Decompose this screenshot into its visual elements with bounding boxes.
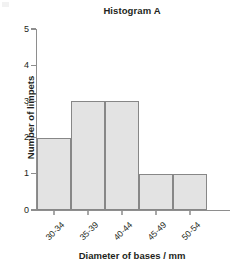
y-tick-label: 3 xyxy=(17,97,29,106)
histogram-bar xyxy=(105,101,139,210)
y-tick-mark xyxy=(31,209,36,210)
histogram-bar xyxy=(173,174,207,210)
x-tick-mark xyxy=(53,211,54,215)
y-tick-label: 1 xyxy=(17,169,29,178)
histogram-bar xyxy=(71,101,105,210)
page-artifact xyxy=(2,2,9,7)
y-tick-mark xyxy=(31,137,36,138)
y-tick-label: 5 xyxy=(17,25,29,34)
y-tick-mark xyxy=(31,28,36,29)
y-tick-mark xyxy=(31,65,36,66)
plot-area xyxy=(37,29,207,210)
x-tick-mark xyxy=(189,211,190,215)
x-tick-mark xyxy=(121,211,122,215)
histogram-chart: Histogram A Number of limpets Diameter o… xyxy=(0,0,245,267)
x-tick-mark xyxy=(155,211,156,215)
y-tick-mark xyxy=(31,173,36,174)
histogram-bar xyxy=(37,138,71,210)
y-tick-label: 0 xyxy=(17,206,29,215)
histogram-bar xyxy=(139,174,173,210)
x-tick-mark xyxy=(87,211,88,215)
chart-title: Histogram A xyxy=(37,5,227,17)
y-tick-label: 2 xyxy=(17,133,29,142)
y-tick-label: 4 xyxy=(17,61,29,70)
y-tick-mark xyxy=(31,101,36,102)
